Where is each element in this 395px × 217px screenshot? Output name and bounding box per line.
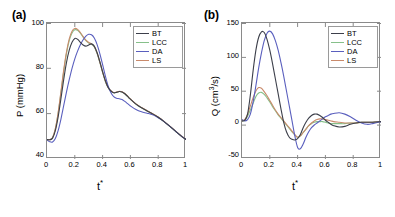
legend-label-da: DA (347, 47, 357, 56)
panel-b-ytick--50: -50 (218, 150, 239, 159)
panel-a-ytick-40: 40 (23, 150, 44, 159)
panel-b-ytick-150: 150 (218, 18, 239, 27)
legend-swatch-bt (136, 33, 149, 34)
legend-item-da[interactable]: DA (136, 47, 179, 56)
panel-a-xtick-0: 0 (36, 160, 56, 169)
panel-b-xtick-0.2: 0.2 (259, 160, 279, 169)
panel-b-xtick-0.4: 0.4 (287, 160, 307, 169)
legend-item-bt[interactable]: BT (136, 29, 179, 38)
panel-b-tag: (b) (204, 8, 219, 22)
legend-item-lcc[interactable]: LCC (136, 38, 179, 47)
legend-label-da: DA (152, 47, 162, 56)
panel-a-xtick-0.2: 0.2 (64, 160, 84, 169)
panel-b-xtick-0.6: 0.6 (314, 160, 334, 169)
legend-swatch-lcc (136, 42, 149, 43)
legend-label-bt: BT (152, 29, 162, 38)
panel-b-xtick-1: 1 (370, 160, 390, 169)
curve-ls (242, 87, 381, 137)
legend-item-lcc[interactable]: LCC (331, 38, 374, 47)
legend-label-lcc: LCC (152, 38, 167, 47)
panel-a-x-axis-label: t* (85, 178, 115, 192)
panel-a-ytick-80: 80 (23, 62, 44, 71)
legend-swatch-lcc (331, 42, 344, 43)
panel-b: (b) Q (cm3/s) 150 100 50 0 -50 (197, 0, 394, 217)
panel-a-legend: BT LCC DA LS (133, 26, 183, 68)
legend-swatch-bt (331, 33, 344, 34)
panel-a-xtick-1: 1 (175, 160, 195, 169)
panel-b-x-axis-label-superscript: * (295, 178, 298, 187)
legend-swatch-ls (331, 60, 344, 61)
panel-a-xtick-0.8: 0.8 (147, 160, 167, 169)
panel-b-ytick-0: 0 (218, 117, 239, 126)
panel-a-x-axis-label-superscript: * (100, 178, 103, 187)
legend-label-lcc: LCC (347, 38, 362, 47)
figure-root: (a) P (mmHg) 100 80 60 40 (0, 0, 395, 217)
panel-a-ytick-60: 60 (23, 106, 44, 115)
legend-item-ls[interactable]: LS (136, 56, 179, 65)
panel-a: (a) P (mmHg) 100 80 60 40 (0, 0, 197, 217)
panel-b-legend: BT LCC DA LS (328, 26, 378, 68)
legend-item-da[interactable]: DA (331, 47, 374, 56)
panel-b-y-axis-label-base: Q (cm (209, 90, 220, 116)
legend-item-bt[interactable]: BT (331, 29, 374, 38)
legend-label-ls: LS (152, 56, 161, 65)
panel-b-x-axis-label: t* (280, 178, 310, 192)
panel-b-ytick-50: 50 (218, 84, 239, 93)
legend-swatch-da (136, 51, 149, 52)
panel-a-xtick-0.6: 0.6 (119, 160, 139, 169)
legend-swatch-da (331, 51, 344, 52)
legend-item-ls[interactable]: LS (331, 56, 374, 65)
panel-a-xtick-0.4: 0.4 (92, 160, 112, 169)
legend-label-bt: BT (347, 29, 357, 38)
legend-label-ls: LS (347, 56, 356, 65)
panel-b-y-axis-label-superscript: 3 (208, 87, 215, 91)
panel-a-ytick-100: 100 (23, 18, 44, 27)
panel-b-xtick-0.8: 0.8 (342, 160, 362, 169)
curve-lcc (242, 92, 381, 137)
legend-swatch-ls (136, 60, 149, 61)
panel-b-xtick-0: 0 (231, 160, 251, 169)
panel-b-ytick-100: 100 (218, 51, 239, 60)
